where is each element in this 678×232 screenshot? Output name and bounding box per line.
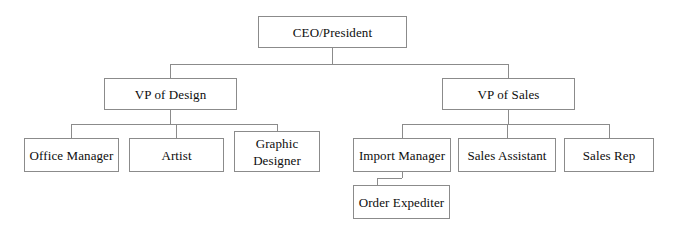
node-box-vp-design[interactable]: VP of Design [104,78,237,110]
node-box-vp-sales[interactable]: VP of Sales [442,78,575,110]
node-box-order-expediter[interactable]: Order Expediter [353,185,450,219]
node-box-artist[interactable]: Artist [129,138,224,172]
node-box-office-manager[interactable]: Office Manager [24,138,119,172]
node-box-graphic-designer[interactable]: Graphic Designer [234,131,320,172]
node-box-sales-rep[interactable]: Sales Rep [564,138,654,172]
node-box-ceo[interactable]: CEO/President [258,16,407,48]
org-chart: CEO/PresidentVP of DesignVP of SalesOffi… [0,0,678,232]
node-box-import-manager[interactable]: Import Manager [353,138,451,172]
node-box-sales-assistant[interactable]: Sales Assistant [458,138,556,172]
